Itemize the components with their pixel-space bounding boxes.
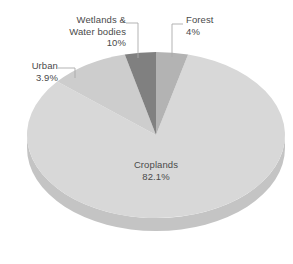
slice-value-croplands: 82.1% xyxy=(116,171,196,183)
slice-label-urban-name: Urban xyxy=(32,60,58,71)
leader-line-forest xyxy=(172,24,183,57)
slice-label-croplands-name: Croplands xyxy=(134,159,178,170)
slice-value-wetlands: 10% xyxy=(43,37,126,49)
slice-label-wetlands: Wetlands & Water bodies 10% xyxy=(43,14,126,49)
slice-value-urban: 3.9% xyxy=(6,72,58,84)
slice-label-urban: Urban 3.9% xyxy=(6,60,58,83)
slice-label-wetlands-line1: Wetlands & xyxy=(77,14,126,25)
pie-chart: Wetlands & Water bodies 10% Urban 3.9% F… xyxy=(0,0,293,264)
slice-value-forest: 4% xyxy=(186,26,256,38)
slice-label-wetlands-line2: Water bodies xyxy=(69,26,126,37)
slice-label-croplands: Croplands 82.1% xyxy=(116,159,196,182)
slice-label-forest-name: Forest xyxy=(186,14,214,25)
slice-label-forest: Forest 4% xyxy=(186,14,256,37)
leader-line-wetlands xyxy=(126,23,138,58)
